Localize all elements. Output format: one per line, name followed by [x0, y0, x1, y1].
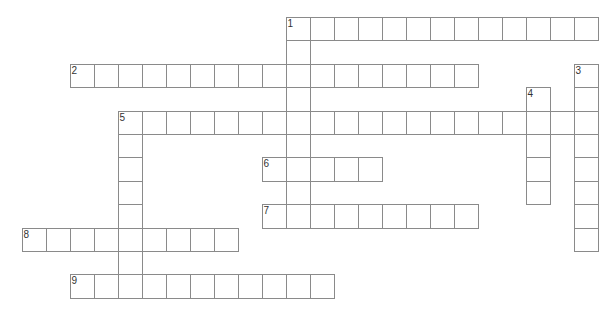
crossword-cell[interactable] [70, 228, 95, 252]
crossword-cell[interactable] [46, 228, 71, 252]
crossword-cell[interactable] [214, 228, 239, 252]
crossword-cell[interactable] [382, 204, 407, 228]
crossword-cell[interactable] [166, 274, 191, 298]
crossword-cell[interactable] [526, 181, 551, 205]
crossword-cell[interactable]: 3 [574, 64, 599, 88]
crossword-cell[interactable]: 4 [526, 87, 551, 111]
crossword-cell[interactable] [310, 17, 335, 41]
crossword-cell[interactable] [166, 228, 191, 252]
crossword-cell[interactable] [334, 204, 359, 228]
crossword-cell[interactable] [118, 228, 143, 252]
crossword-cell[interactable] [526, 157, 551, 181]
crossword-cell[interactable] [430, 17, 455, 41]
crossword-cell[interactable] [286, 134, 311, 158]
crossword-cell[interactable] [286, 40, 311, 64]
crossword-cell[interactable] [382, 17, 407, 41]
crossword-cell[interactable] [454, 111, 479, 135]
crossword-cell[interactable] [238, 111, 263, 135]
crossword-cell[interactable] [358, 157, 383, 181]
crossword-cell[interactable] [310, 111, 335, 135]
crossword-cell[interactable] [238, 274, 263, 298]
crossword-cell[interactable] [406, 64, 431, 88]
crossword-cell[interactable] [454, 17, 479, 41]
crossword-cell[interactable] [478, 17, 503, 41]
crossword-cell[interactable] [118, 181, 143, 205]
crossword-cell[interactable] [574, 87, 599, 111]
crossword-cell[interactable]: 8 [22, 228, 47, 252]
crossword-cell[interactable] [310, 64, 335, 88]
crossword-cell[interactable] [286, 274, 311, 298]
crossword-cell[interactable] [406, 204, 431, 228]
crossword-cell[interactable] [94, 274, 119, 298]
crossword-cell[interactable] [190, 64, 215, 88]
crossword-cell[interactable] [550, 17, 575, 41]
crossword-cell[interactable] [238, 64, 263, 88]
crossword-cell[interactable] [334, 157, 359, 181]
crossword-cell[interactable] [406, 17, 431, 41]
crossword-cell[interactable] [574, 111, 599, 135]
crossword-cell[interactable] [430, 64, 455, 88]
crossword-cell[interactable] [574, 181, 599, 205]
crossword-cell[interactable] [382, 111, 407, 135]
crossword-cell[interactable] [142, 64, 167, 88]
crossword-cell[interactable] [310, 274, 335, 298]
crossword-cell[interactable] [262, 111, 287, 135]
crossword-cell[interactable] [574, 134, 599, 158]
crossword-cell[interactable] [478, 111, 503, 135]
crossword-cell[interactable] [358, 111, 383, 135]
crossword-cell[interactable] [166, 64, 191, 88]
crossword-cell[interactable] [334, 17, 359, 41]
crossword-cell[interactable]: 7 [262, 204, 287, 228]
crossword-cell[interactable] [358, 204, 383, 228]
crossword-cell[interactable] [382, 64, 407, 88]
crossword-cell[interactable] [286, 64, 311, 88]
crossword-cell[interactable] [214, 274, 239, 298]
crossword-cell[interactable] [430, 111, 455, 135]
crossword-cell[interactable] [142, 274, 167, 298]
crossword-cell[interactable] [526, 111, 551, 135]
crossword-cell[interactable] [454, 204, 479, 228]
crossword-cell[interactable] [310, 204, 335, 228]
crossword-cell[interactable] [310, 157, 335, 181]
crossword-cell[interactable] [526, 17, 551, 41]
crossword-cell[interactable]: 2 [70, 64, 95, 88]
crossword-cell[interactable] [262, 274, 287, 298]
crossword-cell[interactable] [358, 64, 383, 88]
crossword-cell[interactable] [118, 157, 143, 181]
crossword-cell[interactable] [118, 64, 143, 88]
crossword-cell[interactable] [358, 17, 383, 41]
crossword-cell[interactable] [502, 17, 527, 41]
crossword-cell[interactable] [406, 111, 431, 135]
crossword-cell[interactable] [574, 17, 599, 41]
crossword-cell[interactable] [214, 111, 239, 135]
crossword-cell[interactable] [118, 251, 143, 275]
crossword-cell[interactable] [454, 64, 479, 88]
crossword-cell[interactable]: 9 [70, 274, 95, 298]
crossword-cell[interactable] [190, 111, 215, 135]
crossword-cell[interactable]: 6 [262, 157, 287, 181]
crossword-cell[interactable] [574, 204, 599, 228]
crossword-cell[interactable] [286, 204, 311, 228]
crossword-cell[interactable] [142, 228, 167, 252]
crossword-cell[interactable] [574, 228, 599, 252]
crossword-cell[interactable] [118, 274, 143, 298]
crossword-cell[interactable] [430, 204, 455, 228]
crossword-cell[interactable] [502, 111, 527, 135]
crossword-cell[interactable] [214, 64, 239, 88]
crossword-cell[interactable] [526, 134, 551, 158]
crossword-cell[interactable] [334, 64, 359, 88]
crossword-cell[interactable] [574, 157, 599, 181]
crossword-cell[interactable] [190, 228, 215, 252]
crossword-cell[interactable] [334, 111, 359, 135]
crossword-cell[interactable] [262, 64, 287, 88]
crossword-cell[interactable] [286, 87, 311, 111]
crossword-cell[interactable] [118, 204, 143, 228]
crossword-cell[interactable] [286, 157, 311, 181]
crossword-cell[interactable]: 1 [286, 17, 311, 41]
crossword-cell[interactable] [118, 134, 143, 158]
crossword-cell[interactable] [142, 111, 167, 135]
crossword-cell[interactable]: 5 [118, 111, 143, 135]
crossword-cell[interactable] [286, 181, 311, 205]
crossword-cell[interactable] [550, 111, 575, 135]
crossword-cell[interactable] [190, 274, 215, 298]
